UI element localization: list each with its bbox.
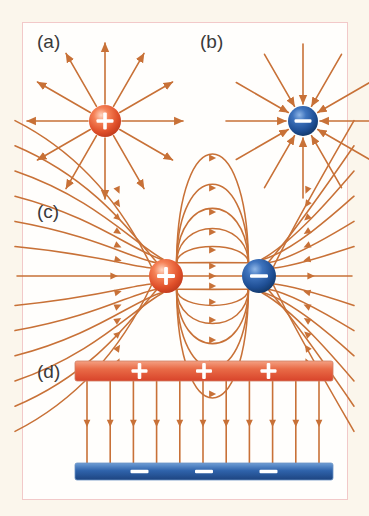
panel-b-minus-symbol [295, 119, 312, 122]
panel-b-label: (b) [200, 31, 223, 53]
panel-a-label: (a) [37, 31, 60, 53]
panel-c-electric-dipole: (c) [23, 197, 346, 345]
panel-d-field-lines [84, 381, 323, 463]
figure-frame: (a) (b) [22, 22, 348, 500]
panel-d-diagram [23, 345, 346, 498]
panel-c-diagram [23, 197, 346, 345]
panel-d-parallel-plates: (d) [23, 345, 346, 498]
panel-c-minus-symbol [250, 274, 268, 278]
panel-a-positive-point-charge: (a) [23, 23, 186, 201]
panel-b-negative-point-charge: (b) [186, 23, 346, 201]
panel-c-label: (c) [37, 201, 59, 223]
panel-d-label: (d) [37, 361, 60, 383]
